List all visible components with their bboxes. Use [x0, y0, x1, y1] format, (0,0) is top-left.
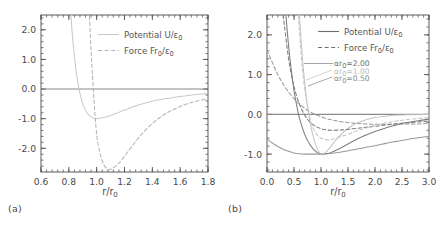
svg-text:2.0: 2.0	[247, 29, 262, 40]
panel-a-tag: (a)	[8, 203, 22, 214]
panel-b-tag: (b)	[228, 203, 242, 214]
svg-text:1.0: 1.0	[21, 54, 36, 65]
panel-b-legend: Potential U/ε0 Force Fr0/ε0	[318, 27, 402, 55]
svg-text:1.0: 1.0	[247, 69, 262, 80]
legend-label-potential: Potential U/ε0	[344, 27, 402, 39]
svg-text:3.0: 3.0	[422, 176, 437, 187]
legend-label-potential: Potential U/ε0	[124, 30, 182, 42]
svg-text:1.5: 1.5	[341, 176, 356, 187]
svg-text:0.0: 0.0	[21, 83, 36, 94]
svg-text:1.0: 1.0	[314, 176, 329, 187]
panel-b-axes	[267, 15, 429, 172]
svg-text:-2.0: -2.0	[18, 143, 36, 154]
legend-label-force: Force Fr0/ε0	[124, 46, 174, 58]
svg-text:0.5: 0.5	[287, 176, 302, 187]
figure-container: 0.60.81.01.21.41.61.82.01.00.0-1.0-2.0 r…	[0, 0, 440, 228]
annotation-alpha-05: αr0=0.50	[334, 74, 370, 85]
panel-b-plot: 0.00.51.01.52.02.53.02.01.00.0-1.0 r/r0 …	[220, 0, 440, 228]
svg-text:1.2: 1.2	[117, 176, 132, 187]
panel-a-curves	[41, 0, 208, 170]
svg-text:1.6: 1.6	[173, 176, 188, 187]
panel-a-xaxis-title: r/r0	[102, 186, 118, 199]
panel-b-annotations: αr0=2.00 αr0=1.00 αr0=0.50	[334, 59, 370, 85]
svg-text:0.8: 0.8	[62, 176, 77, 187]
svg-text:2.5: 2.5	[395, 176, 410, 187]
svg-text:2.0: 2.0	[21, 24, 36, 35]
panel-b-tick-labels: 0.00.51.01.52.02.53.02.01.00.0-1.0	[244, 29, 436, 187]
svg-text:1.8: 1.8	[201, 176, 216, 187]
leader-line-alpha-05	[308, 77, 332, 86]
panel-a-tick-labels: 0.60.81.01.21.41.61.82.01.00.0-1.0-2.0	[18, 24, 215, 187]
svg-text:0.0: 0.0	[260, 176, 275, 187]
panel-b-annotation-leaders	[304, 64, 333, 87]
panel-b: 0.00.51.01.52.02.53.02.01.00.0-1.0 r/r0 …	[220, 0, 440, 228]
svg-text:-1.0: -1.0	[18, 113, 36, 124]
panel-a: 0.60.81.01.21.41.61.82.01.00.0-1.0-2.0 r…	[0, 0, 220, 228]
svg-text:2.0: 2.0	[368, 176, 383, 187]
svg-text:0.0: 0.0	[247, 109, 262, 120]
svg-text:0.6: 0.6	[34, 176, 49, 187]
panel-a-legend: Potential U/ε0 Force Fr0/ε0	[98, 30, 182, 58]
svg-text:1.4: 1.4	[145, 176, 160, 187]
svg-text:-1.0: -1.0	[244, 149, 262, 160]
panel-b-xaxis-title: r/r0	[330, 186, 346, 199]
panel-a-plot: 0.60.81.01.21.41.61.82.01.00.0-1.0-2.0 r…	[0, 0, 220, 228]
legend-label-force: Force Fr0/ε0	[344, 43, 394, 55]
